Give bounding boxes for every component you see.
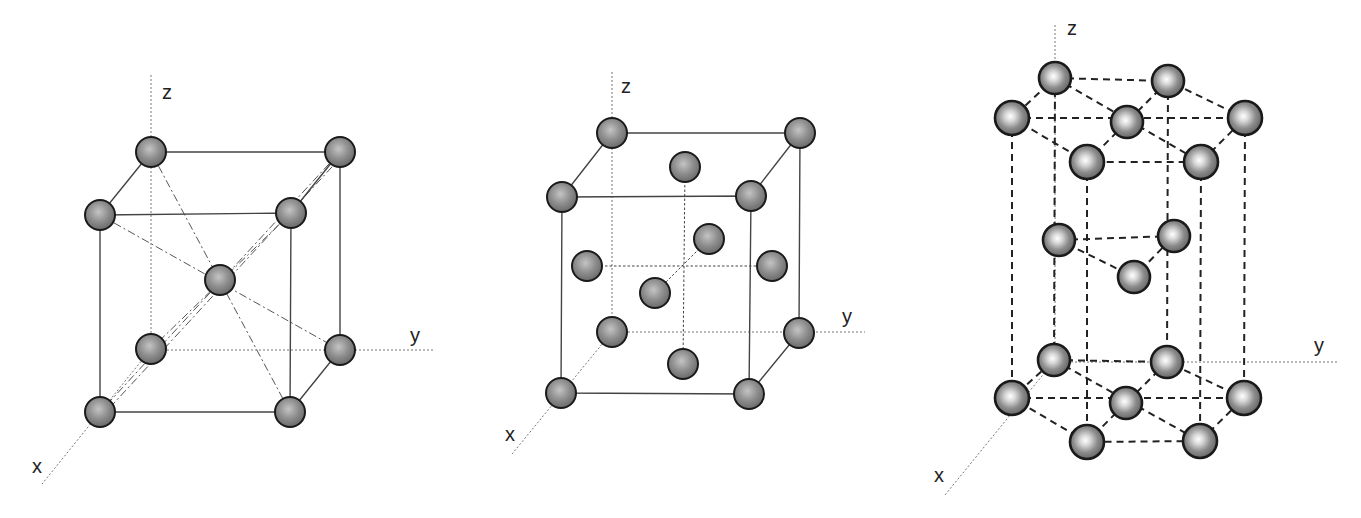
crystal-structures-figure: z y x z y x [0,0,1361,518]
atom-bottom [995,381,1029,415]
atom-top [1111,106,1143,138]
fcc-panel: z y x [505,72,865,454]
atom-bottom [1183,424,1217,458]
atom [275,397,305,427]
atom-face-bottom [668,349,698,379]
atom-face-left [572,251,602,281]
atom-top [1184,145,1218,179]
atom-middle [1158,220,1190,252]
atom-middle [1043,224,1075,256]
atom [325,335,355,365]
atom [276,198,306,228]
atom-bottom [1110,387,1142,419]
atom-top [1228,101,1262,135]
prism-edge [1244,118,1245,398]
atom [85,200,115,230]
z-axis-label: z [621,75,631,97]
atom [597,118,627,148]
atom [136,137,166,167]
atom-middle [1118,261,1150,293]
atom [736,181,766,211]
atom-bottom [1151,346,1183,378]
prism-edge [1200,162,1201,441]
atom-face-front [640,278,670,308]
atom [597,317,627,347]
y-axis-label: y [1314,334,1324,356]
x-axis-label: x [32,455,42,477]
atom-top [1152,65,1184,97]
atom [784,318,814,348]
atom-face-top [670,152,700,182]
y-axis-label: y [842,305,852,327]
x-axis [945,360,1055,495]
atom-top [1039,62,1071,94]
atom [136,334,166,364]
atom [785,118,815,148]
atom-face-back [694,224,724,254]
atom-center [205,265,235,295]
atom-face-right [757,251,787,281]
x-axis-label: x [505,423,515,445]
atom [546,378,576,408]
y-axis-label: y [410,324,420,346]
atom-bottom [1038,344,1070,376]
z-axis-label: z [162,81,172,103]
hcp-panel: z y x [934,17,1337,495]
atom-bottom [1227,381,1261,415]
atom-bottom [1070,425,1104,459]
atom [85,397,115,427]
atom-top [1070,145,1104,179]
bcc-panel: z y x [32,75,435,484]
atom [547,182,577,212]
atom-top [995,101,1029,135]
atom [734,379,764,409]
z-axis-label: z [1067,17,1077,39]
middle-triangle [1059,236,1174,277]
atom [325,137,355,167]
x-axis-label: x [934,464,944,486]
